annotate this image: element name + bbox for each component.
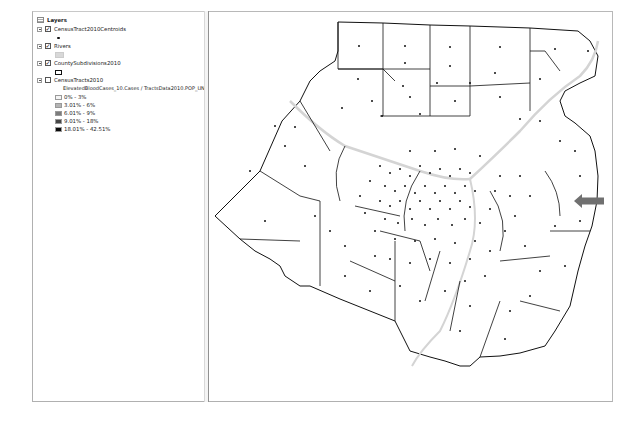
county-map (209, 12, 613, 403)
legend-swatch (55, 111, 62, 116)
collapse-icon[interactable] (37, 44, 42, 49)
layer-visibility-checkbox[interactable] (45, 26, 51, 32)
point-symbol-icon (57, 37, 60, 40)
layer-row-county-subdivisions[interactable]: CountySubdivisions2010 (37, 58, 121, 68)
legend-swatch (55, 95, 62, 100)
layer-row-centroids[interactable]: CensusTract2010Centroids (37, 24, 126, 34)
layer-visibility-checkbox[interactable] (45, 60, 51, 66)
county-boundary (215, 22, 598, 366)
layer-visibility-checkbox[interactable] (45, 77, 51, 83)
polygon-symbol-icon (55, 70, 62, 75)
map-view[interactable] (209, 11, 613, 402)
collapse-icon[interactable] (37, 27, 42, 32)
legend-swatch (55, 127, 62, 132)
legend-class-4: 18.01% - 42.51% (55, 124, 110, 134)
legend-class-label: 18.01% - 42.51% (64, 124, 110, 134)
collapse-icon[interactable] (37, 61, 42, 66)
highlight-arrow-icon (574, 194, 604, 208)
collapse-icon[interactable] (37, 78, 42, 83)
layers-icon (37, 17, 44, 23)
legend-swatch (55, 103, 62, 108)
layer-visibility-checkbox[interactable] (45, 43, 51, 49)
layer-row-rivers[interactable]: Rivers (37, 41, 71, 51)
table-of-contents-panel: Layers CensusTract2010Centroids Rivers C… (32, 11, 204, 402)
layer-name: CensusTract2010Centroids (54, 24, 126, 34)
legend-swatch (55, 119, 62, 124)
layer-name: CountySubdivisions2010 (54, 58, 121, 68)
